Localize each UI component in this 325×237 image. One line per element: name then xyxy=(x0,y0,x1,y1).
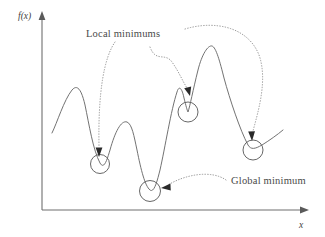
global-minimum-marker xyxy=(140,181,161,202)
pointer-local-to-narrow-valley xyxy=(150,47,187,88)
global-minimum-label: Global minimum xyxy=(231,175,306,186)
function-curve-group xyxy=(52,46,283,191)
x-axis-arrowhead xyxy=(300,207,309,214)
figure-container: f(x) x Local minimums Gl xyxy=(0,0,325,237)
minimums-diagram: f(x) x Local minimums Gl xyxy=(0,0,325,237)
pointer-local-to-first xyxy=(99,42,115,146)
y-axis-arrowhead xyxy=(39,11,46,20)
y-axis-label: f(x) xyxy=(18,11,31,22)
local-minimum-marker-3 xyxy=(243,140,263,160)
local-minimums-label: Local minimums xyxy=(86,28,160,39)
pointer-arrowhead-narrow-valley xyxy=(184,86,191,96)
axis-group: f(x) x xyxy=(18,11,309,230)
pointer-global-to-valley xyxy=(168,174,226,185)
x-axis-label: x xyxy=(298,220,304,230)
annotation-labels-group: Local minimums Global minimum xyxy=(86,28,306,186)
local-minimum-marker-1 xyxy=(91,155,110,174)
pointer-arrowhead-global xyxy=(161,184,171,191)
minima-markers-group xyxy=(91,102,264,202)
function-curve xyxy=(52,46,283,191)
pointer-arrowhead-right xyxy=(248,131,255,141)
